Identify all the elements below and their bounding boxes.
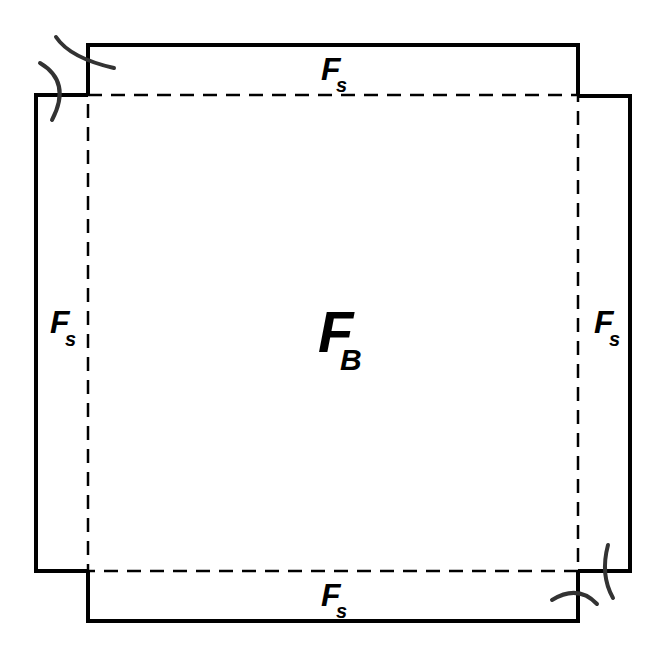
label-right-fs: F s [594, 304, 620, 350]
svg-text:s: s [336, 74, 347, 96]
label-top-fs: F s [321, 51, 347, 96]
svg-text:B: B [340, 343, 362, 376]
svg-text:s: s [65, 328, 76, 350]
arc-top-left-lower [40, 63, 60, 120]
label-center-fb: F B [318, 299, 362, 376]
surface-tension-diagram: F s F s F s F s F B [0, 0, 665, 654]
svg-text:s: s [609, 328, 620, 350]
arc-top-left-upper [56, 37, 114, 68]
svg-text:s: s [336, 600, 347, 622]
label-bottom-fs: F s [321, 577, 347, 622]
label-left-fs: F s [50, 304, 76, 350]
arc-bottom-right-lower [552, 593, 597, 604]
